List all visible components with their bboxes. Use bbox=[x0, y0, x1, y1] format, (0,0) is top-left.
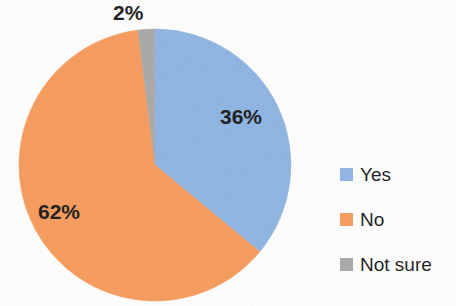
data-label-not-sure: 2% bbox=[113, 1, 143, 25]
pie-slice-group bbox=[19, 29, 291, 301]
data-label-yes: 36% bbox=[220, 105, 262, 129]
legend-swatch-no-icon bbox=[340, 213, 353, 226]
legend-item-no[interactable]: No bbox=[340, 197, 456, 242]
legend-label-yes: Yes bbox=[360, 165, 391, 184]
pie-svg bbox=[0, 0, 320, 306]
legend-swatch-not-sure-icon bbox=[340, 258, 353, 271]
pie-chart: 2% 36% 62% Yes No Not sure bbox=[0, 0, 456, 306]
legend-label-no: No bbox=[360, 210, 384, 229]
chart-legend: Yes No Not sure bbox=[340, 152, 456, 287]
data-label-no: 62% bbox=[38, 200, 80, 224]
legend-label-not-sure: Not sure bbox=[360, 255, 432, 274]
legend-item-yes[interactable]: Yes bbox=[340, 152, 456, 197]
legend-item-not-sure[interactable]: Not sure bbox=[340, 242, 456, 287]
pie-plot-area bbox=[0, 0, 320, 306]
legend-swatch-yes-icon bbox=[340, 168, 353, 181]
